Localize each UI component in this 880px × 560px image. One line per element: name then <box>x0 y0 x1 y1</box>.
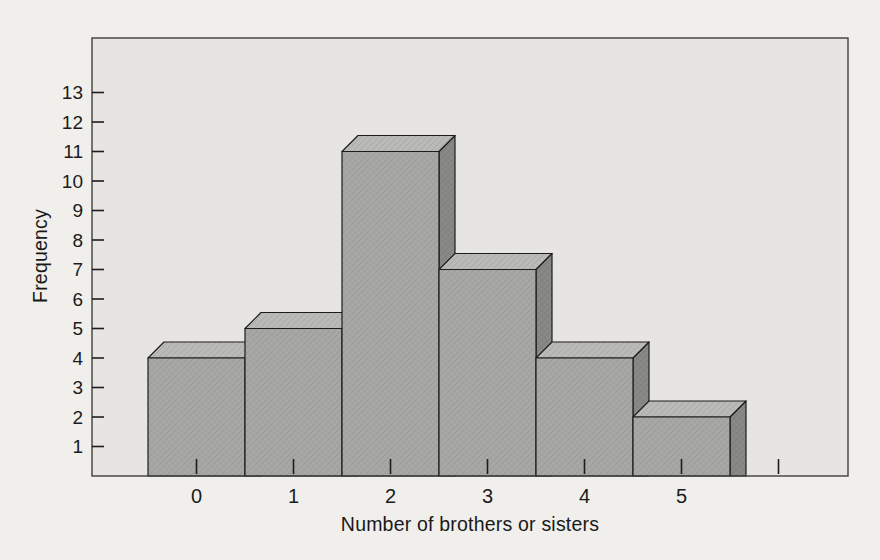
x-tick-label: 4 <box>579 485 590 507</box>
bar-top-face <box>633 401 746 417</box>
bar-4 <box>536 342 649 476</box>
bar-top-face <box>536 342 649 358</box>
y-tick-label: 1 <box>72 436 83 457</box>
bar-front-face <box>536 358 633 476</box>
bar-0 <box>148 342 261 476</box>
y-tick-label: 6 <box>72 289 83 310</box>
histogram-page: 12345678910111213012345 Number of brothe… <box>0 0 880 560</box>
bar-2 <box>342 136 455 477</box>
y-tick-label: 7 <box>72 259 83 280</box>
y-tick-label: 10 <box>62 171 83 192</box>
x-tick-label: 3 <box>482 485 493 507</box>
bar-top-face <box>439 254 552 270</box>
y-tick-label: 8 <box>72 230 83 251</box>
bar-top-face <box>148 342 261 358</box>
bar-front-face <box>342 152 439 477</box>
y-tick-label: 11 <box>63 141 83 162</box>
y-tick-label: 12 <box>62 112 83 133</box>
y-axis-title: Frequency <box>29 209 52 303</box>
x-axis-title: Number of brothers or sisters <box>270 513 670 536</box>
y-tick-label: 9 <box>72 200 83 221</box>
bar-top-face <box>245 313 358 329</box>
bar-front-face <box>148 358 245 476</box>
x-tick-label: 5 <box>676 485 687 507</box>
bar-top-face <box>342 136 455 152</box>
x-tick-label: 1 <box>288 485 299 507</box>
x-tick-label: 0 <box>191 485 202 507</box>
bar-3 <box>439 254 552 477</box>
histogram-chart: 12345678910111213012345 <box>0 0 880 560</box>
y-tick-label: 5 <box>72 318 83 339</box>
bar-1 <box>245 313 358 477</box>
bar-5 <box>633 401 746 476</box>
y-tick-label: 4 <box>72 348 83 369</box>
y-tick-label: 2 <box>72 407 83 428</box>
y-tick-label: 3 <box>72 377 83 398</box>
bar-front-face <box>245 329 342 477</box>
y-tick-label: 13 <box>62 82 83 103</box>
bar-front-face <box>439 270 536 477</box>
x-tick-label: 2 <box>385 485 396 507</box>
